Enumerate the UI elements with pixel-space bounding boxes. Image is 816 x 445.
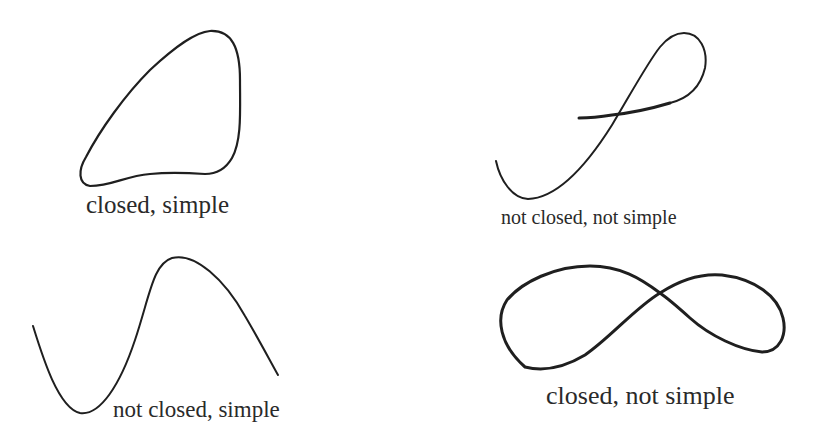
curves-diagram [0, 0, 816, 445]
not-closed-simple-label: not closed, simple [113, 398, 280, 421]
closed-not-simple-label: closed, not simple [546, 383, 734, 409]
closed-simple-curve [80, 31, 240, 186]
closed-simple-label: closed, simple [86, 192, 229, 217]
not-closed-not-simple-label: not closed, not simple [501, 207, 677, 227]
not-closed-simple-curve [33, 257, 278, 413]
closed-not-simple-curve [501, 266, 784, 369]
